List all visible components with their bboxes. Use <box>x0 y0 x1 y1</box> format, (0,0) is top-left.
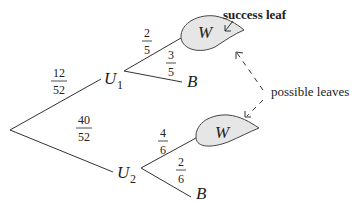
svg-text:5: 5 <box>168 65 174 79</box>
fraction-root-u1: 12 52 <box>51 66 67 97</box>
svg-text:5: 5 <box>144 43 150 57</box>
success-leaf-label: success leaf <box>223 7 287 22</box>
possible-leaves-arrow-up-icon <box>236 52 263 90</box>
svg-text:6: 6 <box>160 143 166 157</box>
leaf-u1-w-label: W <box>198 23 214 42</box>
fraction-root-u2: 40 52 <box>76 113 92 144</box>
svg-text:6: 6 <box>178 172 184 186</box>
probability-tree-diagram: 12 52 40 52 U 1 U 2 2 5 3 5 W B 4 6 <box>0 0 358 201</box>
svg-text:12: 12 <box>53 66 65 80</box>
edge-u2-w <box>141 138 196 168</box>
svg-text:2: 2 <box>178 155 184 169</box>
leaf-u2-w-label: W <box>215 123 231 142</box>
fraction-u2-b: 2 6 <box>176 155 186 186</box>
svg-text:4: 4 <box>160 126 166 140</box>
svg-text:2: 2 <box>130 172 136 186</box>
svg-text:52: 52 <box>78 130 90 144</box>
fraction-u1-b: 3 5 <box>166 48 176 79</box>
possible-leaves-arrow-down-icon <box>245 100 263 117</box>
node-u1: U 1 <box>104 69 123 92</box>
svg-text:U: U <box>117 163 131 182</box>
leaf-u2-b: B <box>196 184 207 201</box>
svg-text:2: 2 <box>144 26 150 40</box>
fraction-u2-w: 4 6 <box>158 126 168 157</box>
svg-text:U: U <box>104 69 118 88</box>
svg-text:52: 52 <box>53 83 65 97</box>
svg-text:3: 3 <box>168 48 174 62</box>
fraction-u1-w: 2 5 <box>142 26 152 57</box>
edge-root-u2 <box>10 130 113 172</box>
svg-text:40: 40 <box>78 113 90 127</box>
node-u2: U 2 <box>117 163 136 186</box>
svg-text:1: 1 <box>117 78 123 92</box>
possible-leaves-label: possible leaves <box>271 84 349 99</box>
leaf-u1-b: B <box>187 72 198 91</box>
